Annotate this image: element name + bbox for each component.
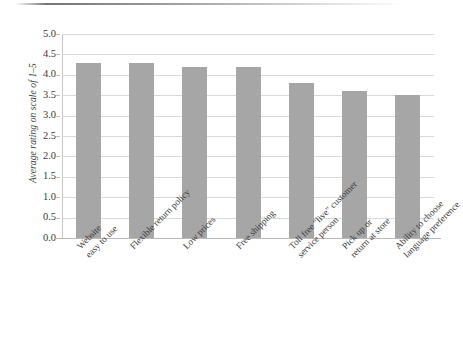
y-axis-tick-mark bbox=[56, 54, 60, 55]
y-axis-tick-mark bbox=[56, 156, 60, 157]
y-axis-tick-label: 0.5 bbox=[22, 212, 56, 223]
y-axis-tick-labels: 5.04.54.03.53.02.52.01.51.00.50.0 bbox=[16, 34, 56, 238]
y-axis-tick-mark bbox=[56, 75, 60, 76]
bar[interactable] bbox=[236, 67, 261, 238]
bar[interactable] bbox=[289, 83, 314, 238]
gridline bbox=[62, 54, 434, 55]
y-axis-tick-label: 2.0 bbox=[22, 151, 56, 162]
y-axis-tick-mark bbox=[56, 197, 60, 198]
gridline bbox=[62, 34, 434, 35]
y-axis-tick-label: 4.0 bbox=[22, 69, 56, 80]
bar[interactable] bbox=[129, 63, 154, 238]
y-axis-tick-label: 3.0 bbox=[22, 110, 56, 121]
y-axis-tick-mark bbox=[56, 116, 60, 117]
y-axis-tick-mark bbox=[56, 218, 60, 219]
y-axis-tick-label: 5.0 bbox=[22, 29, 56, 40]
y-axis-tick-mark bbox=[56, 95, 60, 96]
y-axis-tick-mark bbox=[56, 177, 60, 178]
y-axis-tick-mark bbox=[56, 136, 60, 137]
y-axis-tick-mark bbox=[56, 34, 60, 35]
x-axis-category-labels: Websiteeasy to useFlexible return policy… bbox=[0, 238, 456, 344]
bar[interactable] bbox=[182, 67, 207, 238]
y-axis-tick-label: 3.5 bbox=[22, 90, 56, 101]
y-axis-tick-label: 4.5 bbox=[22, 49, 56, 60]
y-axis-tick-label: 1.0 bbox=[22, 192, 56, 203]
y-axis-tick-label: 1.5 bbox=[22, 171, 56, 182]
bar[interactable] bbox=[76, 63, 101, 238]
plot-area bbox=[62, 34, 434, 238]
bar[interactable] bbox=[395, 95, 420, 238]
y-axis-tick-label: 2.5 bbox=[22, 131, 56, 142]
